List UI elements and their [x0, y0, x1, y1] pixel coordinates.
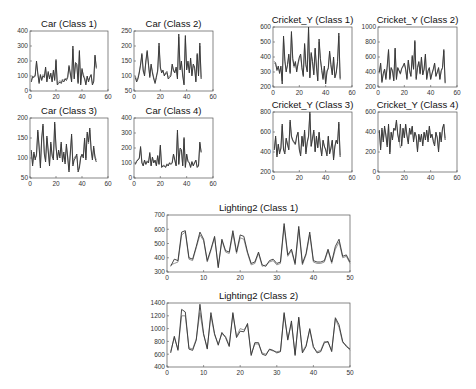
y-tick-label: 200 — [260, 83, 271, 90]
x-tick-label: 20 — [237, 274, 245, 281]
chart-title: Cricket_Y (Class 1) — [253, 14, 373, 25]
series-line — [274, 30, 340, 83]
chart-title: Car (Class 2) — [114, 18, 234, 29]
series-line — [379, 122, 445, 152]
chart-title: Lighting2 (Class 2) — [199, 290, 319, 301]
x-tick-label: 0 — [165, 274, 169, 281]
x-tick-label: 40 — [310, 274, 318, 281]
x-tick-label: 0 — [376, 89, 380, 96]
x-tick-label: 60 — [104, 180, 112, 187]
plot-area: 02040600100200300400 — [0, 0, 476, 389]
series-line — [379, 42, 445, 83]
chart-title: Car (Class 3) — [9, 105, 129, 116]
plot-area: 02040600200400600 — [0, 0, 476, 389]
y-tick-label: 150 — [17, 134, 28, 141]
x-tick-label: 60 — [348, 174, 356, 181]
series-line — [274, 27, 340, 84]
y-tick-label: 0 — [24, 87, 28, 94]
x-tick-label: 0 — [271, 174, 275, 181]
series-line — [31, 124, 96, 170]
x-tick-label: 20 — [157, 93, 165, 100]
x-tick-label: 10 — [200, 274, 208, 281]
x-tick-label: 40 — [322, 89, 330, 96]
x-tick-label: 40 — [427, 89, 435, 96]
x-tick-label: 20 — [401, 89, 409, 96]
axes-box — [378, 27, 457, 87]
chart-title: Car (Class 4) — [114, 105, 234, 116]
series-line — [31, 46, 96, 85]
series-line — [274, 112, 340, 160]
y-tick-label: 400 — [154, 254, 165, 261]
x-tick-label: 60 — [453, 89, 461, 96]
x-tick-label: 0 — [165, 369, 169, 376]
plot-area: 020406050100150200 — [0, 0, 476, 389]
y-tick-label: 600 — [154, 351, 165, 358]
series-line — [171, 304, 350, 355]
y-tick-label: 400 — [365, 68, 376, 75]
chart-title: Cricket_Y (Class 3) — [253, 99, 373, 110]
y-tick-label: 0 — [372, 168, 376, 175]
x-tick-label: 60 — [209, 180, 217, 187]
y-tick-label: 1400 — [151, 299, 166, 306]
y-tick-label: 0 — [128, 174, 132, 181]
axes-box — [167, 215, 350, 272]
chart-title: Car (Class 1) — [9, 18, 129, 29]
chart-title: Lighting2 (Class 1) — [199, 202, 319, 213]
axes-box — [134, 31, 213, 91]
plot-area: 0204060200400600800 — [0, 0, 476, 389]
y-tick-label: 200 — [17, 57, 28, 64]
series-line — [135, 37, 201, 84]
y-tick-label: 200 — [121, 144, 132, 151]
y-tick-label: 150 — [121, 57, 132, 64]
x-tick-label: 30 — [273, 369, 281, 376]
y-tick-label: 100 — [17, 72, 28, 79]
y-tick-label: 800 — [365, 38, 376, 45]
y-tick-label: 300 — [17, 42, 28, 49]
x-tick-label: 20 — [157, 180, 165, 187]
y-tick-label: 600 — [260, 128, 271, 135]
y-tick-label: 200 — [121, 42, 132, 49]
y-tick-label: 300 — [260, 68, 271, 75]
x-tick-label: 40 — [78, 93, 86, 100]
x-tick-label: 0 — [28, 180, 32, 187]
x-tick-label: 40 — [78, 180, 86, 187]
y-tick-label: 800 — [154, 338, 165, 345]
y-tick-label: 50 — [125, 87, 133, 94]
y-tick-label: 100 — [17, 154, 28, 161]
plot-area: 0204060200300400500600 — [0, 0, 476, 389]
y-tick-label: 100 — [121, 72, 132, 79]
y-tick-label: 50 — [21, 174, 29, 181]
x-tick-label: 50 — [346, 274, 354, 281]
x-tick-label: 20 — [52, 93, 60, 100]
y-tick-label: 200 — [365, 83, 376, 90]
axes-box — [273, 112, 352, 172]
x-tick-label: 20 — [401, 174, 409, 181]
x-tick-label: 0 — [28, 93, 32, 100]
y-tick-label: 400 — [365, 128, 376, 135]
x-tick-label: 0 — [376, 174, 380, 181]
x-tick-label: 60 — [348, 89, 356, 96]
x-tick-label: 0 — [132, 93, 136, 100]
series-line — [135, 34, 201, 85]
y-tick-label: 1200 — [151, 312, 166, 319]
plot-area: 020406050100150200250 — [0, 0, 476, 389]
x-tick-label: 20 — [296, 174, 304, 181]
x-tick-label: 30 — [273, 274, 281, 281]
y-tick-label: 500 — [154, 240, 165, 247]
series-line — [379, 120, 445, 154]
axes-box — [167, 303, 350, 367]
axes-box — [30, 118, 108, 178]
x-tick-label: 40 — [310, 369, 318, 376]
y-tick-label: 300 — [154, 268, 165, 275]
series-line — [135, 130, 201, 168]
x-tick-label: 50 — [346, 369, 354, 376]
y-tick-label: 300 — [121, 129, 132, 136]
y-tick-label: 400 — [260, 148, 271, 155]
axes-box — [378, 112, 457, 172]
y-tick-label: 500 — [260, 38, 271, 45]
y-tick-label: 100 — [121, 159, 132, 166]
y-tick-label: 400 — [154, 363, 165, 370]
axes-box — [273, 27, 352, 87]
y-tick-label: 400 — [260, 53, 271, 60]
plot-area: 01020304050400600800100012001400 — [0, 0, 476, 389]
